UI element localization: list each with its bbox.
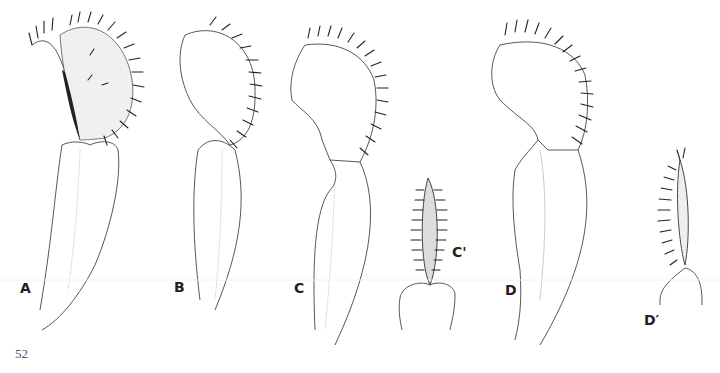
illustration-a: [29, 12, 144, 330]
illustration-c-prime: [399, 178, 455, 330]
panel-label-c-prime: C': [452, 244, 467, 260]
leaf-illustrations: [0, 0, 720, 373]
illustration-c: [291, 26, 388, 345]
panel-label-d-prime: D′: [644, 312, 659, 328]
panel-label-c: C: [294, 280, 304, 296]
panel-label-a: A: [20, 280, 31, 296]
botanical-figure: A B C C' D D′ 52: [0, 0, 720, 373]
panel-label-d: D: [505, 282, 517, 298]
illustration-b: [180, 17, 262, 310]
illustration-d-prime: [658, 148, 702, 305]
panel-label-b: B: [174, 279, 185, 295]
page-number: 52: [15, 346, 28, 362]
